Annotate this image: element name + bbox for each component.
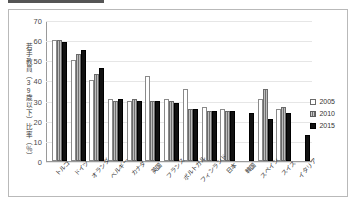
y-tick-label: 10 [33, 137, 42, 146]
legend-swatch-2015-icon [310, 123, 316, 129]
bar-group [87, 21, 106, 161]
chart-frame: 若手教員（39歳以下）比率（％） 010203040506070 トルコドイツオ… [8, 9, 348, 197]
legend-label-2015: 2015 [319, 122, 335, 129]
bar-group [200, 21, 219, 161]
bar-groups [47, 21, 312, 161]
legend-swatch-2005-icon [310, 99, 316, 105]
bar-group [181, 21, 200, 161]
bar-group [50, 21, 69, 161]
bar-group [69, 21, 88, 161]
bar-2015-日本 [230, 111, 235, 161]
legend-item-2015: 2015 [310, 122, 335, 129]
bar-group [106, 21, 125, 161]
x-label-cell: オランダ [88, 163, 107, 205]
x-label-cell: ベルギー [106, 163, 125, 205]
legend-item-2010: 2010 [310, 110, 335, 117]
bar-group [162, 21, 181, 161]
x-label-cell: イタリア [294, 163, 313, 205]
x-label-cell: 英国 [144, 163, 163, 205]
y-tick-label: 60 [33, 37, 42, 46]
legend-swatch-2010-icon [310, 111, 316, 117]
bar-group [293, 21, 312, 161]
bar-2015-オランダ [99, 68, 104, 161]
bar-2015-スペイン [268, 119, 273, 161]
y-tick-label: 20 [33, 117, 42, 126]
x-label-cell: フランス [163, 163, 182, 205]
chart-legend: 2005 2010 2015 [310, 98, 335, 129]
x-label-cell: トルコ [50, 163, 69, 205]
bar-2015-トルコ [62, 42, 67, 161]
y-tick-label: 70 [33, 17, 42, 26]
bar-group [275, 21, 294, 161]
x-label-cell: フィンランド [200, 163, 219, 205]
bar-group [256, 21, 275, 161]
bar-2015-ドイツ [81, 50, 86, 161]
cropped-header-strip [8, 0, 104, 3]
x-label-cell: 日本 [219, 163, 238, 205]
bar-group [144, 21, 163, 161]
bar-2015-英国 [155, 101, 160, 161]
bar-group [218, 21, 237, 161]
bar-2015-ベルギー [118, 99, 123, 161]
bar-2015-ポルトガル [193, 109, 198, 161]
legend-label-2005: 2005 [319, 98, 335, 105]
y-tick-label: 40 [33, 77, 42, 86]
x-label-cell: カナダ [125, 163, 144, 205]
x-label-cell: 韓国 [238, 163, 257, 205]
x-label-cell: スイス [275, 163, 294, 205]
bar-2015-韓国 [249, 113, 254, 161]
x-label-cell: ドイツ [69, 163, 88, 205]
x-axis-labels: トルコドイツオランダベルギーカナダ英国フランスポルトガルフィンランド日本韓国スペ… [47, 163, 313, 205]
x-label-cell: ポルトガル [181, 163, 200, 205]
bar-2015-スイス [286, 113, 291, 161]
bar-2015-イタリア [305, 135, 310, 161]
bar-2015-フィンランド [212, 111, 217, 161]
y-tick-label: 0 [38, 158, 42, 167]
bar-2015-フランス [174, 103, 179, 161]
chart-screenshot: 若手教員（39歳以下）比率（％） 010203040506070 トルコドイツオ… [0, 0, 356, 215]
y-tick-label: 30 [33, 97, 42, 106]
legend-item-2005: 2005 [310, 98, 335, 105]
legend-label-2010: 2010 [319, 110, 335, 117]
bar-group [125, 21, 144, 161]
y-tick-label: 50 [33, 57, 42, 66]
plot-area: 010203040506070 [46, 21, 312, 162]
x-label-cell: スペイン [257, 163, 276, 205]
bar-group [237, 21, 256, 161]
bar-2015-カナダ [137, 101, 142, 161]
